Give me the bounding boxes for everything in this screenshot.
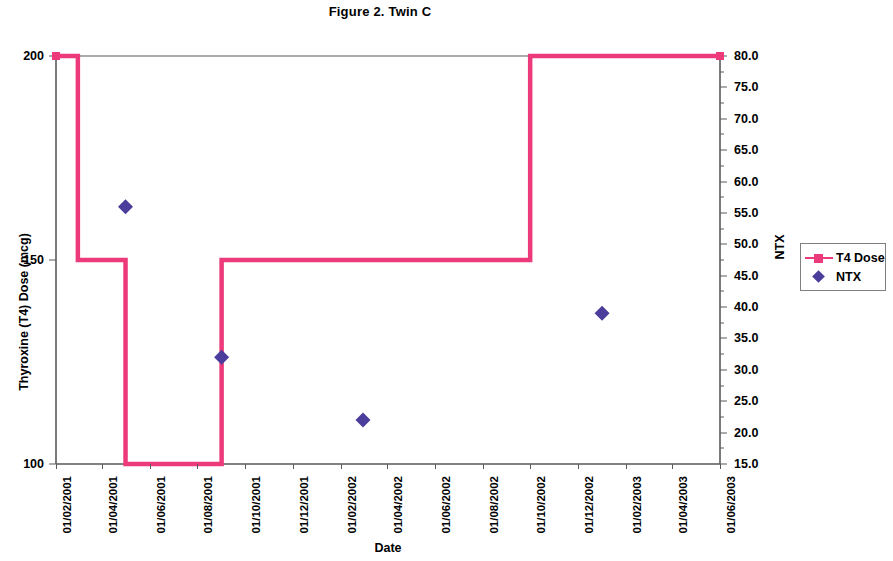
- x-axis-tick-label: 01/06/2003: [725, 476, 737, 534]
- x-axis-tick-mark: [483, 464, 484, 469]
- x-axis-tick-mark: [530, 464, 531, 469]
- y-axis-right-tick-label: 20.0: [734, 426, 758, 440]
- legend-item-ntx: NTX: [804, 267, 881, 286]
- y-axis-right-tick-mark: [720, 244, 727, 245]
- y-axis-right-tick-label: 30.0: [734, 363, 758, 377]
- data-point-marker-t4-dose: [52, 52, 60, 60]
- x-axis-tick-label: 01/02/2002: [346, 476, 358, 534]
- y-axis-right-tick-label: 25.0: [734, 394, 758, 408]
- y-axis-right-tick-mark: [720, 432, 727, 433]
- x-axis-tick-mark: [626, 464, 627, 469]
- x-axis-tick-mark: [720, 464, 721, 469]
- y-axis-right-tick-mark: [720, 87, 727, 88]
- x-axis-tick-label: 01/08/2002: [488, 476, 500, 534]
- x-axis-tick-label: 01/02/2003: [631, 476, 643, 534]
- x-axis-tick-label: 01/08/2001: [202, 476, 214, 534]
- x-axis-tick-label: 01/12/2001: [298, 476, 310, 534]
- y-axis-left-tick-label: 200: [23, 49, 44, 63]
- y-axis-left-tick-label: 150: [23, 253, 44, 267]
- legend-item-t4-dose: T4 Dose: [804, 248, 881, 267]
- x-axis-tick-mark: [578, 464, 579, 469]
- y-axis-right-tick-mark: [720, 401, 727, 402]
- y-axis-right-tick-mark: [720, 212, 727, 213]
- x-axis-tick-label: 01/06/2002: [440, 476, 452, 534]
- y-axis-left-title: Thyroxine (T4) Dose (mcg): [17, 112, 31, 512]
- x-axis-tick-label: 01/10/2002: [535, 476, 547, 534]
- x-axis-tick-label: 01/10/2001: [250, 476, 262, 534]
- y-axis-right-tick-label: 60.0: [734, 175, 758, 189]
- y-axis-right-tick-label: 50.0: [734, 237, 758, 251]
- x-axis-tick-label: 01/04/2002: [392, 476, 404, 534]
- x-axis-tick-mark: [672, 464, 673, 469]
- x-axis-tick-label: 01/04/2001: [107, 476, 119, 534]
- y-axis-right-tick-label: 40.0: [734, 300, 758, 314]
- data-point-marker-ntx: [356, 413, 371, 428]
- y-axis-right-tick-label: 65.0: [734, 143, 758, 157]
- x-axis-tick-label: 01/04/2003: [677, 476, 689, 534]
- data-point-marker-ntx: [214, 350, 229, 365]
- x-axis-tick-mark: [150, 464, 151, 469]
- y-axis-left-tick-mark: [49, 260, 56, 261]
- y-axis-right-tick-label: 35.0: [734, 331, 758, 345]
- y-axis-right-title: NTX: [773, 207, 787, 287]
- y-axis-left: Thyroxine (T4) Dose (mcg) 100150200: [0, 50, 56, 470]
- x-axis-tick-label: 01/12/2002: [583, 476, 595, 534]
- x-axis-tick-mark: [56, 464, 57, 469]
- legend: T4 Dose NTX: [800, 243, 886, 291]
- x-axis-tick-label: 01/02/2001: [61, 476, 73, 534]
- x-axis-tick-mark: [341, 464, 342, 469]
- x-axis-tick-mark: [197, 464, 198, 469]
- y-axis-right: 15.020.025.030.035.040.045.050.055.060.0…: [720, 50, 780, 470]
- data-point-marker-ntx: [595, 306, 610, 321]
- legend-label-ntx: NTX: [836, 270, 861, 284]
- x-axis-tick-mark: [102, 464, 103, 469]
- chart-title: Figure 2. Twin C: [0, 4, 760, 19]
- series-ntx: [118, 199, 610, 427]
- legend-label-t4-dose: T4 Dose: [836, 251, 885, 265]
- y-axis-right-tick-label: 55.0: [734, 206, 758, 220]
- plot-canvas: [56, 56, 720, 464]
- x-axis-title: Date: [56, 541, 720, 555]
- plot-area: [56, 56, 720, 464]
- series-line-t4-dose: [56, 56, 720, 464]
- series-t4-dose: [52, 52, 724, 464]
- x-axis-tick-mark: [245, 464, 246, 469]
- diamond-marker-icon: [804, 270, 834, 284]
- y-axis-right-tick-label: 80.0: [734, 49, 758, 63]
- y-axis-right-tick-label: 70.0: [734, 112, 758, 126]
- x-axis-tick-label: 01/06/2001: [155, 476, 167, 534]
- figure-container: Figure 2. Twin C Thyroxine (T4) Dose (mc…: [0, 0, 893, 561]
- line-square-marker-icon: [804, 251, 834, 265]
- y-axis-right-tick-mark: [720, 338, 727, 339]
- data-point-marker-ntx: [118, 199, 133, 214]
- y-axis-right-tick-mark: [720, 150, 727, 151]
- x-axis-tick-mark: [387, 464, 388, 469]
- x-axis-tick-mark: [293, 464, 294, 469]
- x-axis: 01/02/200101/04/200101/06/200101/08/2001…: [0, 464, 893, 544]
- y-axis-right-tick-mark: [720, 275, 727, 276]
- data-point-marker-t4-dose: [716, 52, 724, 60]
- y-axis-right-tick-mark: [720, 307, 727, 308]
- y-axis-right-tick-mark: [720, 369, 727, 370]
- x-axis-tick-mark: [435, 464, 436, 469]
- y-axis-right-tick-mark: [720, 181, 727, 182]
- y-axis-right-tick-label: 75.0: [734, 80, 758, 94]
- y-axis-right-tick-mark: [720, 118, 727, 119]
- y-axis-right-tick-label: 45.0: [734, 269, 758, 283]
